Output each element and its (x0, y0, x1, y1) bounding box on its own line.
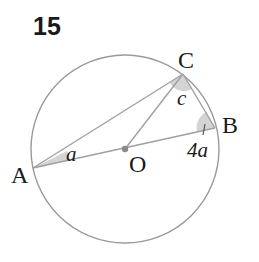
angle-wedge-a (33, 151, 70, 168)
label-angle-a: a (66, 142, 77, 166)
label-angle-c: c (177, 86, 187, 110)
label-point-c: C (178, 47, 194, 73)
label-angle-4a: 4a (187, 138, 208, 162)
center-point-o (122, 146, 128, 152)
segment-ac (33, 74, 183, 168)
label-point-a: A (11, 162, 29, 188)
segment-oc (125, 74, 183, 149)
label-point-o: O (129, 151, 146, 177)
label-point-b: B (222, 112, 238, 138)
circle-geometry-diagram: A B C O a c 4a (0, 0, 259, 262)
